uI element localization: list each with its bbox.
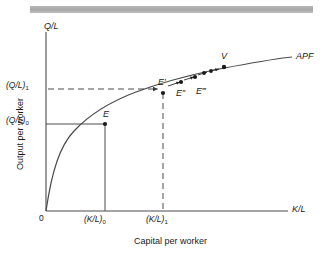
- arrow-eprime-to-epp: [168, 82, 180, 86]
- point-label-v: V: [221, 52, 227, 61]
- origin-label: 0: [39, 214, 44, 223]
- y-tick-ql1-sub: 1: [25, 85, 28, 91]
- x-tick-kl1-sub: 1: [164, 219, 167, 225]
- y-tick-ql0-sub: 0: [25, 120, 28, 126]
- x-tick-kl0-sub: 0: [102, 219, 105, 225]
- point-marker-eprime: [161, 91, 165, 95]
- point-marker-v: [222, 65, 226, 69]
- x-tick-kl0: (K/L)0: [84, 215, 106, 224]
- point-marker-mid-1: [202, 71, 206, 75]
- point-label-eppp: E‴: [196, 87, 205, 96]
- x-axis-symbol: K/L: [292, 205, 306, 214]
- apf-curve-label: APF: [296, 52, 314, 61]
- arrow-epp-to-eppp: [184, 77, 194, 80]
- x-tick-kl0-main: (K/L): [84, 214, 102, 224]
- figure-canvas: Q/L K/L APF 0 (Q/L)1 (Q/L)0 (K/L)0 (K/L)…: [0, 0, 323, 259]
- apf-leader-line: [283, 57, 292, 58]
- point-marker-eppp: [193, 75, 197, 79]
- x-axis-title: Capital per worker: [134, 237, 207, 246]
- point-marker-e: [103, 122, 107, 126]
- point-marker-epp: [179, 80, 183, 84]
- point-marker-mid-2: [209, 69, 213, 73]
- x-tick-kl1: (K/L)1: [146, 215, 168, 224]
- point-label-epp: E″: [176, 89, 185, 98]
- y-axis-title: Output per worker: [16, 98, 25, 170]
- x-tick-kl1-main: (K/L): [146, 214, 164, 224]
- y-tick-ql1: (Q/L)1: [6, 81, 29, 90]
- point-label-eprime: E′: [158, 78, 166, 87]
- y-axis-symbol: Q/L: [44, 22, 59, 31]
- y-tick-ql1-main: (Q/L): [6, 80, 25, 90]
- point-label-e: E: [103, 110, 109, 119]
